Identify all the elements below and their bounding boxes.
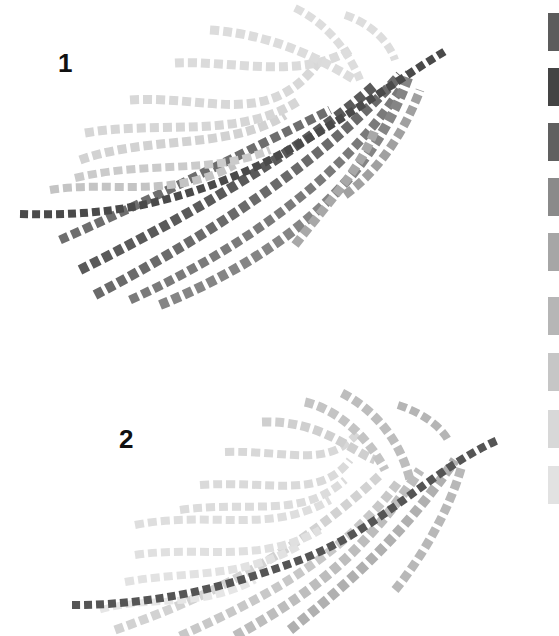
figure-2-label: 2	[119, 426, 133, 452]
frond-dashed-arc	[395, 465, 462, 590]
frond-dashed-arc	[345, 15, 395, 60]
grey-swatch	[548, 123, 559, 161]
figure-2-fern	[72, 393, 498, 636]
figure-1-fern	[20, 8, 447, 305]
grey-swatch	[548, 68, 559, 106]
grey-swatch	[548, 466, 559, 504]
grey-swatch	[548, 410, 559, 448]
fern-illustration	[0, 0, 559, 636]
grey-swatch	[548, 297, 559, 335]
grey-swatch	[548, 178, 559, 216]
frond-dashed-arc	[130, 60, 320, 104]
grey-swatch	[548, 353, 559, 391]
grey-swatch	[548, 233, 559, 271]
frond-dashed-arc	[398, 405, 448, 440]
figure-1-label: 1	[58, 50, 72, 76]
grey-swatch	[548, 13, 559, 51]
frond-dashed-arc	[200, 460, 350, 486]
